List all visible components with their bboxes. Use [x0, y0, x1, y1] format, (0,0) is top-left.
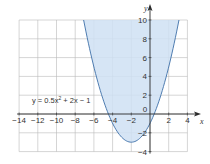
equation-suffix: + 2x − 1	[61, 96, 90, 105]
x-tick-label: −12	[31, 116, 45, 125]
y-tick-label: −4	[138, 148, 148, 157]
y-axis-label: y	[143, 4, 148, 13]
equation-prefix: y = 0.5x	[32, 96, 59, 105]
x-tick-label: −8	[71, 116, 81, 125]
x-tick-label: −14	[12, 116, 26, 125]
x-axis-label: x	[199, 117, 204, 126]
y-tick-label: 10	[138, 16, 147, 25]
y-tick-label: −2	[138, 129, 148, 138]
x-tick-label: −4	[108, 116, 118, 125]
x-tick-label: 4	[185, 116, 190, 125]
x-tick-label: −2	[127, 116, 137, 125]
y-tick-label: 8	[143, 35, 148, 44]
x-tick-label: −10	[50, 116, 64, 125]
x-tick-label: 2	[166, 116, 171, 125]
x-tick-label: −6	[89, 116, 99, 125]
y-tick-label: 6	[143, 54, 148, 63]
y-tick-label: 2	[143, 91, 148, 100]
x-tick-label: 0	[143, 105, 148, 114]
y-tick-label: 4	[143, 72, 148, 81]
parabola-inequality-chart: −14−12−10−8−6−4−2024−4−2246810 x y y = 0…	[0, 0, 210, 164]
equation-label: y = 0.5x2 + 2x − 1	[32, 95, 90, 105]
